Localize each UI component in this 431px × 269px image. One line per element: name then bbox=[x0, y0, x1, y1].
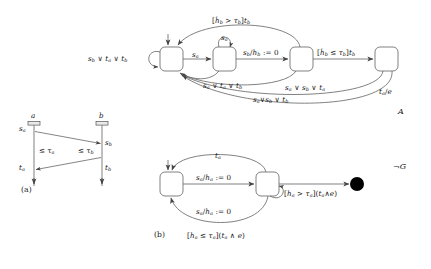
state-q0 bbox=[160, 47, 183, 71]
msc-event-timeout-b: tb bbox=[105, 164, 111, 172]
state-p1 bbox=[256, 172, 279, 196]
state-p0 bbox=[160, 172, 183, 196]
edge-q2-q0-top bbox=[178, 25, 300, 47]
label-edge-p1-p0-bot: [ha ≤ τa](ta ∧ e) bbox=[187, 232, 245, 240]
msc-event-send-a: sa bbox=[19, 125, 26, 133]
label-q2-q0-top-guard: [ḣb > τb]tb bbox=[212, 17, 250, 25]
message-a-to-b bbox=[35, 132, 101, 144]
msc-lifeline-a-label: a bbox=[31, 112, 35, 119]
label-edge-p0-p1: sa/ha := 0 bbox=[196, 174, 231, 182]
label-edge-q3-q0-outer: ta/e bbox=[379, 88, 392, 96]
label-self-loop-q1: sa bbox=[221, 34, 228, 42]
diagram-vector-layer bbox=[0, 0, 431, 269]
observer-g-name: ¬G bbox=[393, 163, 406, 171]
caption-b: (b) bbox=[154, 231, 165, 239]
msc-lifeline-b-label: b bbox=[99, 112, 104, 119]
msc-event-timeout-a: ta bbox=[19, 164, 25, 172]
msc-constraint-a: ≤ τa bbox=[39, 147, 55, 155]
state-q3 bbox=[375, 47, 398, 71]
label-edge-q2-q3: [ḣb ≤ τb]tb bbox=[317, 49, 355, 57]
label-edge-q1-q2: sb/hb := 0 bbox=[243, 49, 279, 57]
label-edge-p1-accept: [ha > τa](ta∧e) bbox=[284, 190, 337, 198]
msc-constraint-b: ≤ τb bbox=[78, 147, 94, 155]
automaton-a-name: A bbox=[398, 108, 404, 116]
lifeline-head-b bbox=[96, 122, 108, 126]
msc-event-recv-b: sb bbox=[105, 139, 112, 147]
label-self-loop-q0: sb ∨ ta ∨ tb bbox=[88, 55, 128, 63]
label-edge-q1-q0: sa ∨ ta ∨ tb bbox=[203, 82, 242, 90]
figure-canvas: a b sa sb ta tb ≤ τa ≤ τb (a) [ḣb > τb]t… bbox=[0, 0, 431, 269]
label-edge-q3-q0-lower: sa∨sb ∨ tb bbox=[253, 96, 289, 104]
label-edge-p1-p0-top: ta bbox=[215, 152, 221, 160]
caption-a: (a) bbox=[21, 186, 32, 194]
label-edge-q0-q1: sa bbox=[192, 51, 199, 59]
lifeline-head-a bbox=[28, 122, 40, 126]
state-q2 bbox=[290, 47, 313, 71]
automaton-a-group bbox=[149, 25, 398, 103]
label-edge-q2-q0-mid: sa ∨ sb ∨ ta bbox=[285, 84, 325, 92]
state-q1 bbox=[213, 47, 236, 71]
label-self-loop-p1: sa/ha := 0 bbox=[196, 208, 231, 216]
self-loop-q0 bbox=[149, 51, 160, 67]
message-b-to-a bbox=[36, 158, 101, 170]
state-accept bbox=[350, 177, 364, 191]
